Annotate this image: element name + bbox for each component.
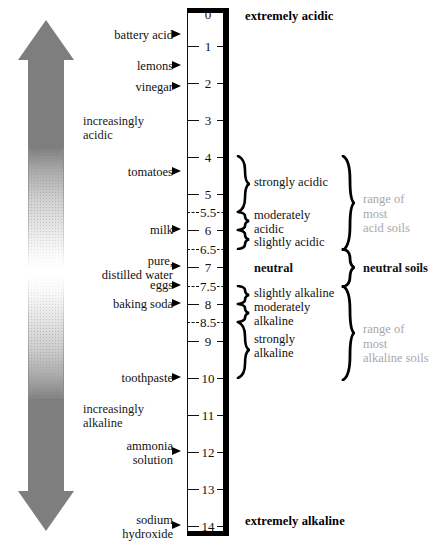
increasingly-alkaline-line2: alkaline	[83, 416, 169, 430]
sodium-hydroxide-line1: sodium	[122, 514, 173, 528]
increasingly-alkaline-line1: increasingly	[83, 402, 169, 416]
substance-label-eggs: eggs	[150, 279, 173, 293]
strongly-alkaline-line1: strongly	[254, 333, 295, 347]
tick-label-6: 6	[187, 224, 229, 237]
ammonia-line2: solution	[126, 454, 173, 468]
tick-label-6-5: 6.5	[187, 243, 229, 256]
brace-slightly-alkaline	[236, 285, 250, 305]
pointer-ammonia	[172, 447, 181, 455]
descriptor-moderately-alkaline: moderately alkaline	[254, 301, 310, 328]
soil-range-alkaline: range of most alkaline soils	[363, 322, 431, 366]
tick-label-5-5: 5.5	[187, 206, 229, 219]
brace-moderately-acidic	[236, 211, 250, 231]
substance-label-milk: milk	[150, 224, 173, 238]
tick-label-8-5: 8.5	[187, 316, 229, 329]
substance-label-battery-acid: battery acid	[114, 29, 173, 43]
header-extremely-alkaline: extremely alkaline	[245, 514, 345, 529]
soil-alkaline-line1: range of most	[363, 322, 431, 351]
pointer-baking-soda	[172, 299, 181, 307]
distilled-water-line1: pure,	[23, 255, 173, 269]
ammonia-line1: ammonia	[126, 440, 173, 454]
moderately-acidic-line2: acidic	[254, 223, 310, 237]
substance-label-tomatoes: tomatoes	[128, 166, 173, 180]
tick-label-11: 11	[187, 409, 229, 422]
strongly-alkaline-line2: alkaline	[254, 347, 295, 361]
brace-neutral-soils	[340, 248, 355, 288]
arrow-up-edge-left	[28, 148, 29, 270]
tick-label-4: 4	[187, 151, 229, 164]
soil-acid-line1: range of most	[363, 192, 431, 221]
tick-label-0: 0	[187, 8, 229, 21]
tick-label-12: 12	[187, 446, 229, 459]
tick-label-7-5: 7.5	[187, 280, 229, 293]
tick-label-8: 8	[187, 298, 229, 311]
pointer-lemons	[172, 61, 181, 69]
pointer-sodium-hydroxide	[172, 521, 181, 529]
substance-label-sodium-hydroxide: sodium hydroxide	[122, 514, 173, 541]
increasingly-alkaline-label: increasingly alkaline	[83, 402, 169, 430]
substance-label-vinegar: vinegar	[136, 81, 173, 95]
soil-acid-line2: acid soils	[363, 221, 431, 236]
tick-label-9: 9	[187, 335, 229, 348]
pointer-milk	[172, 225, 181, 233]
descriptor-neutral: neutral	[254, 262, 293, 276]
pointer-toothpaste	[172, 373, 181, 381]
arrow-down-fade	[28, 275, 64, 400]
tick-label-1: 1	[187, 40, 229, 53]
tick-label-10: 10	[187, 372, 229, 385]
descriptor-strongly-alkaline: strongly alkaline	[254, 333, 295, 360]
arrow-down-shaft	[28, 399, 64, 492]
moderately-acidic-line1: moderately	[254, 209, 310, 223]
tick-label-13: 13	[187, 483, 229, 496]
brace-alkaline-soils	[340, 285, 355, 381]
soil-alkaline-line2: alkaline soils	[363, 351, 431, 366]
tick-label-3: 3	[187, 114, 229, 127]
increasingly-acidic-line2: acidic	[83, 128, 169, 142]
descriptor-slightly-acidic: slightly acidic	[254, 236, 324, 250]
arrow-up-shaft	[28, 59, 64, 149]
pointer-tomatoes	[172, 167, 181, 175]
moderately-alkaline-line2: alkaline	[254, 315, 310, 329]
moderately-alkaline-line1: moderately	[254, 301, 310, 315]
ph-axis: 0 1 2 3 4 5 5.5 6 6.5 7	[187, 12, 229, 532]
substance-label-baking-soda: baking soda	[113, 298, 173, 312]
brace-moderately-alkaline	[236, 303, 250, 323]
tick-label-2: 2	[187, 77, 229, 90]
brace-strongly-acidic	[236, 155, 250, 213]
arrow-up-fade	[28, 148, 64, 268]
descriptor-slightly-alkaline: slightly alkaline	[254, 287, 334, 301]
pointer-distilled-water	[172, 262, 181, 270]
tick-label-5: 5	[187, 188, 229, 201]
increasingly-acidic-line1: increasingly	[83, 114, 169, 128]
arrow-down-edge-right	[63, 275, 64, 399]
pointer-vinegar	[172, 82, 181, 90]
descriptor-strongly-acidic: strongly acidic	[254, 176, 328, 190]
substance-label-toothpaste: toothpaste	[122, 372, 173, 386]
brace-strongly-alkaline	[236, 321, 250, 379]
brace-slightly-acidic	[236, 229, 250, 250]
header-extremely-acidic: extremely acidic	[245, 9, 333, 24]
soil-range-acid: range of most acid soils	[363, 192, 431, 236]
pointer-eggs	[172, 281, 181, 289]
substance-label-ammonia: ammonia solution	[126, 440, 173, 467]
substance-label-lemons: lemons	[137, 60, 173, 74]
increasingly-acidic-label: increasingly acidic	[83, 114, 169, 142]
arrow-down-edge-left	[28, 275, 29, 399]
sodium-hydroxide-line2: hydroxide	[122, 528, 173, 542]
soil-range-neutral: neutral soils	[363, 261, 428, 276]
tick-label-14: 14	[187, 520, 229, 533]
brace-acid-soils	[340, 155, 355, 251]
tick-label-7: 7	[187, 261, 229, 274]
descriptor-moderately-acidic: moderately acidic	[254, 209, 310, 236]
arrow-down-head-icon	[18, 491, 74, 531]
arrow-up-head-icon	[18, 20, 74, 60]
ph-scale-diagram: increasingly acidic increasingly alkalin…	[0, 0, 431, 550]
arrow-up-edge-right	[63, 148, 64, 270]
pointer-battery-acid	[172, 30, 181, 38]
